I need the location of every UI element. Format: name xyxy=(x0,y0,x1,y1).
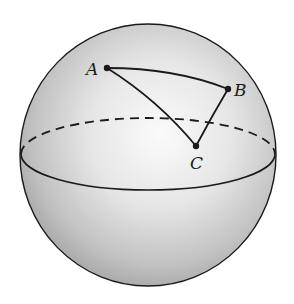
point-b xyxy=(225,86,231,92)
point-c xyxy=(193,143,199,149)
label-a: A xyxy=(84,59,98,79)
label-c: C xyxy=(190,153,203,173)
spherical-triangle-figure: A B C xyxy=(0,0,294,304)
sphere xyxy=(20,24,276,286)
label-b: B xyxy=(233,80,247,100)
point-a xyxy=(104,65,110,71)
